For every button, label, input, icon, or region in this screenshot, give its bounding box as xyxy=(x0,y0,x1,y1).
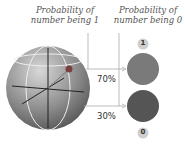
caption-prob-one: Probability of number being 1 xyxy=(30,5,100,25)
percent-zero: 30% xyxy=(97,111,116,121)
state-one-label: 1 xyxy=(141,39,146,47)
percent-one: 70% xyxy=(97,74,116,84)
caption-line: Probability of xyxy=(112,5,184,15)
caption-line: number being 1 xyxy=(30,15,100,25)
state-zero-circle xyxy=(127,90,159,122)
connector-lines xyxy=(84,33,126,108)
caption-line: number being 0 xyxy=(112,15,184,25)
bloch-sphere xyxy=(6,46,90,130)
state-one-circle xyxy=(127,53,159,85)
state-zero-label: 0 xyxy=(141,128,146,136)
caption-prob-zero: Probability of number being 0 xyxy=(112,5,184,25)
caption-line: Probability of xyxy=(30,5,100,15)
